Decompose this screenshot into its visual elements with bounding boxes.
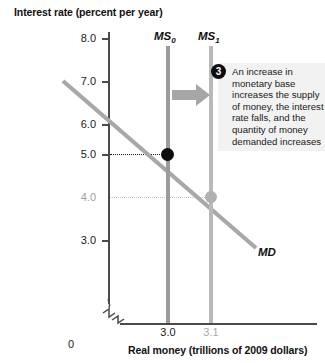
ms1-label-subscript: 1: [215, 36, 219, 45]
money-supply-curve-ms0: [166, 46, 170, 323]
ms0-label: MS0: [154, 30, 176, 45]
ms1-label: MS1: [198, 30, 220, 45]
supply-shift-arrow-icon: [172, 83, 212, 107]
ms0-label-text: MS: [154, 30, 171, 42]
ms1-label-text: MS: [198, 30, 215, 42]
money-demand-curve: [0, 0, 325, 363]
money-market-chart: Interest rate (percent per year) Real mo…: [0, 0, 325, 363]
annotation-text: An increase in monetary base increases t…: [220, 66, 324, 147]
md-label: MD: [258, 246, 276, 258]
initial-equilibrium-point: [161, 148, 174, 161]
annotation-bullet-3: 3: [211, 64, 226, 79]
annotation-box: An increase in monetary base increases t…: [218, 63, 325, 151]
ms0-label-subscript: 0: [171, 36, 175, 45]
new-equilibrium-point: [205, 191, 217, 203]
